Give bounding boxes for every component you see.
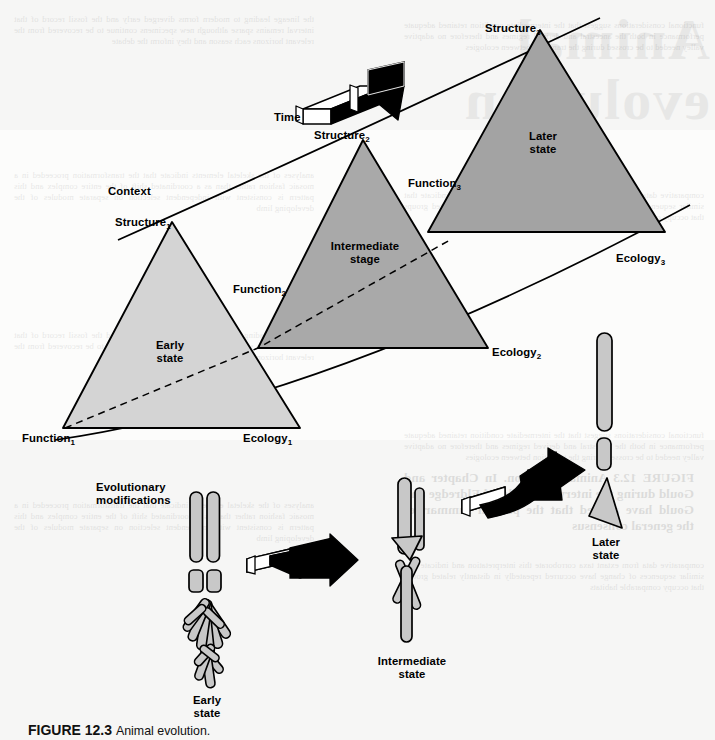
label-bottom-early-state: Early state: [168, 694, 246, 720]
label-evolutionary-modifications: Evolutionary modifications: [96, 481, 171, 507]
label-context: Context: [108, 185, 151, 198]
skeleton-early-state: [182, 492, 232, 688]
label-structure-3: Structure3: [485, 22, 541, 39]
label-later-state: Later state: [505, 130, 581, 156]
label-time: Time: [274, 111, 301, 124]
label-ecology-2: Ecology2: [492, 346, 541, 363]
figure-caption-number: FIGURE 12.3: [28, 722, 112, 738]
label-intermediate-stage: Intermediate stage: [315, 240, 415, 266]
skeleton-intermediate-state: [392, 478, 424, 642]
label-bottom-intermediate-state: Intermediate state: [366, 655, 458, 681]
figure-canvas: [0, 0, 715, 740]
triangle-early-state: [63, 222, 300, 428]
figure-caption: FIGURE 12.3 Animal evolution.: [28, 722, 688, 738]
label-structure-2: Structure2: [314, 129, 370, 146]
label-function-1: Function1: [22, 432, 75, 449]
label-early-state: Early state: [130, 339, 210, 365]
skeleton-later-state: [589, 333, 622, 528]
label-structure-1: Structure1: [115, 216, 171, 233]
time-arrow-3d: [296, 62, 404, 124]
label-function-3: Function3: [408, 177, 461, 194]
evolution-arrow-2: [462, 448, 585, 518]
label-bottom-later-state: Later state: [568, 536, 644, 562]
label-ecology-3: Ecology3: [616, 252, 665, 269]
figure-caption-text: Animal evolution.: [116, 724, 210, 738]
label-function-2: Function2: [233, 283, 286, 300]
evolution-arrow-1: [247, 534, 358, 586]
figure-page: the lineage leading to modern forms dive…: [0, 0, 715, 740]
label-ecology-1: Ecology1: [243, 432, 292, 449]
